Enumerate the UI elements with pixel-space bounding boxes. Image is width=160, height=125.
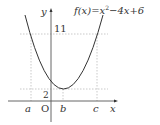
function-rhs: −4x+6 [109, 5, 145, 16]
y-axis-label: y [40, 6, 47, 17]
function-label: f(x)=x2−4x+6 [73, 4, 145, 16]
x-axis-label: x [110, 103, 116, 114]
y-tick-label-2: 2 [43, 90, 49, 100]
y-axis-arrow-icon [50, 8, 53, 12]
y-tick-label-11: 11 [54, 23, 67, 34]
x-tick-label-b: b [60, 103, 66, 114]
x-tick-label-c: c [93, 103, 99, 114]
parabola-diagram: y f(x)=x2−4x+6 11 2 a O b c x [0, 0, 160, 125]
origin-label: O [41, 103, 49, 114]
x-tick-label-a: a [25, 103, 31, 114]
function-lhs: f(x)=x [73, 5, 106, 16]
